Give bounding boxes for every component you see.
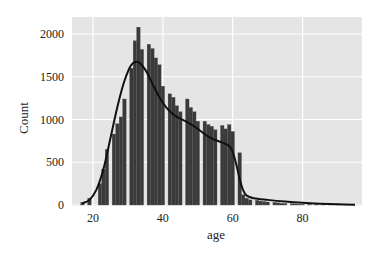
histogram-bar bbox=[297, 204, 300, 205]
y-tick-label: 2000 bbox=[40, 27, 64, 41]
histogram-bar bbox=[262, 202, 265, 205]
histogram-bar bbox=[119, 117, 122, 205]
histogram-bar bbox=[224, 129, 227, 205]
y-axis-label: Count bbox=[16, 102, 31, 134]
histogram-bar bbox=[175, 106, 178, 205]
histogram-bar bbox=[276, 203, 279, 205]
histogram-bar bbox=[189, 108, 192, 205]
histogram-bar bbox=[248, 200, 251, 205]
histogram-bar bbox=[116, 124, 119, 205]
y-tick-label: 1000 bbox=[40, 113, 64, 127]
histogram-bar bbox=[231, 131, 234, 205]
histogram-bar bbox=[196, 121, 199, 205]
histogram-bar bbox=[266, 202, 269, 205]
histogram-bar bbox=[179, 112, 182, 205]
histogram-bar bbox=[123, 99, 126, 205]
histogram-bar bbox=[245, 198, 248, 205]
histogram-bar bbox=[154, 58, 157, 205]
histogram-bar bbox=[151, 49, 154, 205]
histogram-bar bbox=[294, 204, 297, 205]
x-tick-label: 20 bbox=[87, 211, 99, 225]
x-axis-label: age bbox=[207, 227, 225, 242]
y-tick-label: 500 bbox=[46, 155, 64, 169]
histogram-bar bbox=[259, 201, 262, 205]
y-axis-ticks: 0500100015002000 bbox=[40, 27, 64, 212]
x-tick-label: 80 bbox=[297, 211, 309, 225]
histogram-bar bbox=[227, 125, 230, 205]
histogram-bar bbox=[133, 41, 136, 205]
histogram-bar bbox=[137, 27, 140, 205]
histogram-bar bbox=[273, 202, 276, 205]
histogram-bar bbox=[241, 195, 244, 205]
x-tick-label: 60 bbox=[227, 211, 239, 225]
histogram-bar bbox=[158, 65, 161, 205]
x-axis-ticks: 20406080 bbox=[87, 211, 309, 225]
y-tick-label: 1500 bbox=[40, 70, 64, 84]
histogram-bar bbox=[140, 49, 143, 205]
y-tick-label: 0 bbox=[58, 198, 64, 212]
x-tick-label: 40 bbox=[157, 211, 169, 225]
histogram-bar bbox=[255, 200, 258, 205]
histogram-chart: 0500100015002000 20406080 age Count bbox=[0, 0, 376, 259]
histogram-bar bbox=[280, 203, 283, 205]
histogram-bar bbox=[186, 99, 189, 205]
histogram-bar bbox=[130, 68, 133, 205]
histogram-bar bbox=[147, 44, 150, 205]
histogram-bar bbox=[301, 204, 304, 205]
histogram-bar bbox=[220, 125, 223, 205]
histogram-bar bbox=[112, 134, 115, 205]
histogram-bar bbox=[290, 204, 293, 205]
histogram-bar bbox=[308, 204, 311, 205]
histogram-bar bbox=[283, 203, 286, 205]
